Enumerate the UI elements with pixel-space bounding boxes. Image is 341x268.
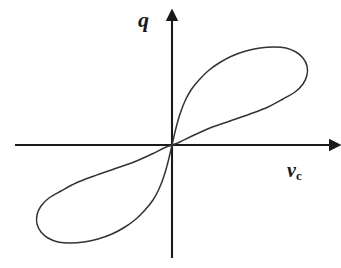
x-axis-label: vc — [287, 160, 302, 180]
lower-lobe-curve — [36, 145, 172, 243]
y-axis-label: q — [138, 9, 149, 31]
hysteresis-plot-svg — [0, 0, 341, 268]
figure-container: q vc — [0, 0, 341, 268]
x-axis-label-subscript: c — [296, 168, 302, 183]
upper-lobe-curve — [172, 47, 308, 145]
x-axis-label-base: v — [287, 159, 296, 181]
